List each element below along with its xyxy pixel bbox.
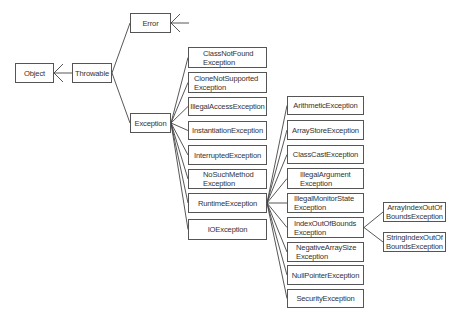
class-node-nosuchmethod: NoSuchMethod Exception bbox=[188, 169, 267, 189]
class-node-clonenotsupported: CloneNotSupported Exception bbox=[188, 72, 267, 93]
class-node-classcast: ClassCastException bbox=[287, 145, 364, 164]
edge-exception-to-throwable bbox=[112, 73, 130, 123]
class-node-arraystore: ArrayStoreException bbox=[287, 120, 364, 140]
edge-instantiation-to-exception bbox=[171, 123, 188, 131]
edge-classcast-to-runtime bbox=[267, 155, 287, 204]
class-node-exception: Exception bbox=[130, 113, 171, 133]
edge-negativearraysize-to-runtime bbox=[267, 203, 287, 252]
class-node-arithmetic: ArithmeticException bbox=[287, 96, 364, 115]
class-node-instantiation: InstantiationException bbox=[188, 121, 267, 140]
edge-error-to-throwable bbox=[112, 23, 130, 73]
edge-stringindexoutofbounds-to-indexoutofbounds bbox=[364, 228, 383, 243]
class-node-nullpointer: NullPointerException bbox=[287, 265, 364, 285]
class-node-arrayindexoutofbounds: ArrayIndexOutOf BoundsException bbox=[383, 202, 446, 222]
class-node-runtime: RuntimeException bbox=[188, 193, 267, 213]
class-node-classnotfound: ClassNotFound Exception bbox=[188, 47, 267, 68]
class-node-illegalargument: IllegalArgument Exception bbox=[287, 168, 364, 189]
edge-security-to-runtime bbox=[267, 203, 287, 299]
exception-hierarchy-diagram: ObjectThrowableErrorExceptionClassNotFou… bbox=[0, 0, 463, 321]
class-node-object: Object bbox=[15, 63, 54, 83]
class-node-throwable: Throwable bbox=[72, 63, 112, 83]
class-node-error: Error bbox=[130, 13, 171, 33]
class-node-illegalaccess: IllegalAccessException bbox=[188, 97, 267, 116]
class-node-illegalmonitorstate: IllegalMonitorState Exception bbox=[287, 193, 364, 213]
edge-runtime-to-exception bbox=[171, 123, 188, 203]
edge-classnotfound-to-exception bbox=[171, 58, 188, 124]
edge-arrayindexoutofbounds-to-indexoutofbounds bbox=[364, 212, 383, 228]
edge-arraystore-to-runtime bbox=[267, 130, 287, 203]
class-node-security: SecurityException bbox=[287, 289, 364, 308]
class-node-stringindexoutofbounds: StringIndexOutOf BoundsException bbox=[383, 232, 446, 252]
class-node-interrupted: InterruptedException bbox=[188, 145, 267, 165]
class-node-indexoutofbounds: IndexOutOfBounds Exception bbox=[287, 217, 364, 238]
class-node-negativearraysize: NegativeArraySize Exception bbox=[287, 242, 364, 262]
edge-nullpointer-to-runtime bbox=[267, 203, 287, 275]
class-node-io: IOException bbox=[188, 219, 267, 240]
edge-arithmetic-to-runtime bbox=[267, 106, 287, 204]
